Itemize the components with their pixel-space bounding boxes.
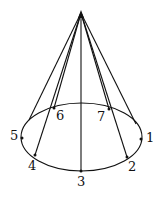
- point-label-6: 6: [56, 108, 64, 123]
- point-3: [80, 170, 83, 173]
- point-labels: 1234567: [10, 108, 154, 189]
- point-label-3: 3: [77, 174, 85, 189]
- point-label-2: 2: [128, 159, 136, 174]
- point-label-1: 1: [146, 130, 154, 145]
- point-5: [21, 137, 24, 140]
- point-label-7: 7: [97, 109, 105, 124]
- edge-apex-to-2: [81, 13, 127, 157]
- point-1: [140, 138, 143, 141]
- point-4: [34, 154, 37, 157]
- point-label-5: 5: [10, 128, 18, 143]
- cone-diagram: 1234567: [0, 0, 158, 203]
- cone-edges: [29, 10, 136, 171]
- apex-point: [78, 10, 84, 18]
- edge-apex-to-4: [35, 13, 81, 155]
- point-label-4: 4: [28, 158, 36, 173]
- point-7: [108, 108, 111, 111]
